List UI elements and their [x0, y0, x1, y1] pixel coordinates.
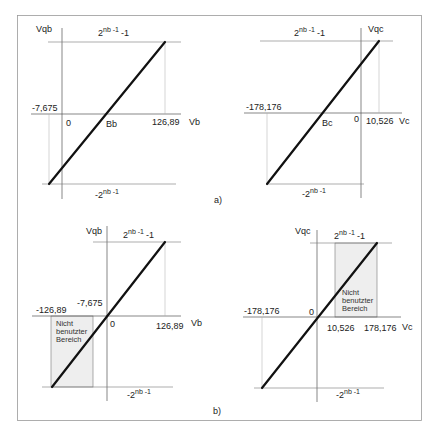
- origin-label: 0: [354, 114, 359, 124]
- x-min-label: -7,675: [32, 103, 58, 113]
- quantization-diagram: Vqb 2nb -1-1 -7,675 0 Bb 126,89 Vb -2nb …: [0, 0, 438, 437]
- bottom-level-label: -2nb -1: [127, 388, 151, 400]
- bottom-level-label: -2nb -1: [95, 188, 119, 200]
- transfer-line: [49, 42, 165, 184]
- top-level-label: 2nb -1-1: [98, 26, 129, 38]
- x-max-label: 178,176: [364, 323, 397, 333]
- top-level-label: 2nb -1-1: [334, 229, 365, 241]
- x-max-label: 126,89: [156, 321, 184, 331]
- top-level-label: 2nb -1-1: [294, 26, 325, 38]
- y-axis-label: Vqc: [368, 24, 384, 34]
- panel-a-right: Vqc 2nb -1-1 -178,176 Bc 0 10,526 Vc -2n…: [244, 24, 410, 199]
- x-max-label: 126,89: [152, 117, 180, 127]
- origin-label: 0: [110, 319, 115, 329]
- x-axis-label: Vc: [402, 322, 413, 332]
- y-axis-label: Vqc: [295, 226, 311, 236]
- transfer-line: [52, 242, 165, 387]
- intercept-label: Bc: [322, 118, 333, 128]
- panel-b-right: Vqc 2nb -1-1 -178,176 0 10,526 178,176 V…: [243, 226, 413, 402]
- x-axis-label: Vb: [189, 117, 200, 127]
- x-min-label: -178,176: [244, 306, 280, 316]
- transfer-line: [267, 41, 379, 184]
- panel-a-left: Vqb 2nb -1-1 -7,675 0 Bb 126,89 Vb -2nb …: [31, 24, 200, 200]
- x-min-label: -178,176: [246, 102, 282, 112]
- x-max-label: 10,526: [366, 116, 394, 126]
- x-offset-label: 10,526: [327, 323, 355, 333]
- x-axis-label: Vc: [399, 116, 410, 126]
- intercept-label: Bb: [106, 119, 117, 129]
- y-axis-label: Vqb: [86, 226, 102, 236]
- origin-label: 0: [66, 118, 71, 128]
- x-offset-label: -7,675: [77, 298, 103, 308]
- origin-label: 0: [309, 307, 314, 317]
- top-level-label: 2nb -1-1: [123, 228, 154, 240]
- bottom-level-label: -2nb -1: [302, 187, 326, 199]
- y-axis-label: Vqb: [36, 24, 52, 34]
- bottom-level-label: -2nb -1: [336, 388, 360, 400]
- x-axis-label: Vb: [191, 318, 202, 328]
- panel-b-left: Vqb 2nb -1-1 -126,89 -7,675 0 126,89 Vb …: [32, 226, 202, 401]
- panel-label-a: a): [214, 195, 222, 205]
- panel-label-b: b): [213, 406, 221, 416]
- x-min-label: -126,89: [36, 305, 67, 315]
